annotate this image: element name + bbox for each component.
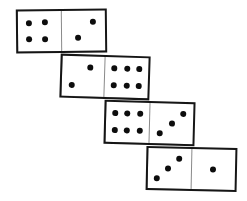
domino-2-left-half — [61, 56, 105, 97]
pip — [112, 110, 118, 116]
domino-4-left-half — [148, 148, 192, 189]
pip — [137, 66, 143, 72]
pip — [153, 176, 159, 182]
pip — [75, 35, 81, 41]
pip — [123, 83, 129, 89]
pip — [42, 19, 48, 25]
pip — [124, 127, 130, 133]
pip — [26, 20, 32, 26]
pip — [157, 131, 163, 137]
domino-4-right-half — [191, 149, 235, 190]
pip — [111, 127, 117, 133]
pip — [137, 111, 143, 117]
pip — [137, 128, 143, 134]
pip — [90, 19, 96, 25]
pip — [42, 36, 48, 42]
pip — [110, 82, 116, 88]
domino-1-left-half — [18, 11, 62, 51]
pip — [124, 66, 130, 72]
pip — [27, 36, 33, 42]
domino-1 — [16, 9, 107, 54]
pip — [136, 83, 142, 89]
domino-scene — [0, 0, 247, 201]
pip — [210, 166, 216, 172]
pip — [87, 65, 93, 71]
domino-2-right-half — [104, 57, 148, 98]
pip — [124, 111, 130, 117]
pip — [111, 65, 117, 71]
domino-3 — [103, 100, 195, 146]
pip — [169, 121, 175, 127]
domino-3-left-half — [105, 102, 150, 143]
pip — [176, 155, 182, 161]
domino-2 — [59, 54, 150, 101]
pip — [164, 165, 170, 171]
pip — [181, 110, 187, 116]
pip — [69, 82, 75, 88]
domino-3-right-half — [149, 103, 194, 144]
domino-4 — [146, 146, 238, 192]
domino-1-right-half — [61, 11, 105, 51]
